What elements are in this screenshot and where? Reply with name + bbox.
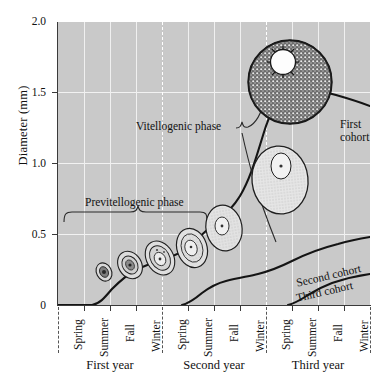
gridline-x-summer-1 [84,22,85,305]
gridline-x-winter-3 [344,22,345,305]
x-tick-mark-3 [188,306,189,311]
y-tick-mark-1.0 [52,163,57,164]
year-divider-2 [266,307,267,353]
x-tick-mark-6 [292,306,293,311]
x-tick-mark-2 [136,306,137,311]
x-tick-mark-5 [240,306,241,311]
x-season-label-winter-3: Winter [358,321,370,352]
y-tick-label-0: 0 [0,300,46,311]
x-season-label-winter-2: Winter [254,321,266,352]
gridline-x-year-boundary-2 [266,22,267,305]
x-tick-mark-8 [344,306,345,311]
y-tick-label-2.0: 2.0 [0,16,46,27]
x-season-label-spring-3: Spring [280,319,292,350]
gridline-x-fall-3 [318,22,319,305]
gridline-x-winter-2 [240,22,241,305]
year-divider-end [370,307,371,353]
gridline-x-winter-1 [136,22,137,305]
y-axis-label: Diameter (mm) [16,51,31,201]
x-season-label-spring-1: Spring [72,319,84,350]
y-tick-label-0.5: 0.5 [0,229,46,240]
x-season-label-fall-3: Fall [332,324,344,342]
annotation-first-cohort-line1: First [340,118,361,130]
year-divider-1 [162,307,163,353]
x-season-label-summer-3: Summer [306,318,318,357]
x-season-label-fall-1: Fall [124,324,136,342]
x-year-label-first: First year [58,358,162,373]
annotation-first-cohort: First cohort [340,118,390,144]
gridline-x-summer-3 [292,22,293,305]
x-year-label-third: Third year [266,358,370,373]
gridline-x-year-boundary-1 [162,22,163,305]
gridline-x-fall-1 [110,22,111,305]
x-tick-mark-1 [110,306,111,311]
oocyte-growth-chart: 2.0 1.5 1.0 0.5 0 Diameter (mm) Spring S… [0,0,390,387]
x-season-label-summer-1: Summer [98,318,110,357]
x-season-label-summer-2: Summer [202,318,214,357]
year-divider-start [58,307,59,353]
gridline-x-summer-2 [188,22,189,305]
annotation-previtellogenic-phase: Previtellogenic phase [85,196,184,208]
x-tick-mark-0 [84,306,85,311]
x-season-label-fall-2: Fall [228,324,240,342]
x-tick-mark-4 [214,306,215,311]
y-axis-line [57,22,58,306]
gridline-x-fall-2 [214,22,215,305]
y-tick-mark-0.5 [52,234,57,235]
x-season-label-spring-2: Spring [176,319,188,350]
x-season-label-winter-1: Winter [150,321,162,352]
plot-area [58,22,370,305]
annotation-vitellogenic-phase: Vitellogenic phase [136,120,221,132]
x-tick-mark-7 [318,306,319,311]
x-year-label-second: Second year [162,358,266,373]
y-tick-mark-1.5 [52,92,57,93]
annotation-first-cohort-line2: cohort [340,131,369,143]
